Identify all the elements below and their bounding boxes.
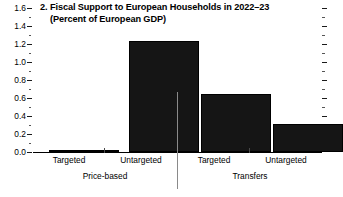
y-tick-label-3: 0.6 (14, 94, 26, 102)
y-tick-major-right-2 (322, 116, 327, 117)
y-tick-minor-left-6 (29, 35, 31, 36)
y-tick-major-left-3 (27, 98, 32, 99)
y-tick-minor-left-5 (29, 53, 31, 54)
y-tick-major-left-6 (27, 44, 32, 45)
x-axis-tick-1 (249, 148, 250, 153)
y-tick-minor-left-7 (29, 17, 31, 18)
y-tick-label-6: 1.2 (14, 40, 26, 48)
y-tick-major-left-8 (27, 8, 32, 9)
x-category-label-1: Untargeted (105, 156, 177, 165)
x-axis-tick-0 (104, 148, 105, 153)
x-category-label-3: Untargeted (250, 156, 322, 165)
y-tick-major-left-1 (27, 134, 32, 135)
bar-price-based-untargeted[interactable] (129, 41, 199, 152)
y-axis-labels: 0.0 0.2 0.4 0.6 0.8 1.0 1.2 1.4 1.6 (0, 0, 26, 197)
y-tick-minor-right-5 (322, 53, 325, 54)
x-category-label-2: Targeted (178, 156, 250, 165)
y-tick-minor-right-4 (322, 71, 325, 72)
bar-transfers-targeted[interactable] (201, 94, 271, 153)
y-tick-major-left-7 (27, 26, 32, 27)
y-tick-minor-right-2 (322, 107, 325, 108)
y-tick-label-0: 0.0 (14, 148, 26, 156)
y-tick-minor-right-6 (322, 35, 325, 36)
y-tick-major-left-0 (27, 152, 32, 153)
y-tick-minor-left-2 (29, 107, 31, 108)
y-tick-major-right-6 (322, 44, 327, 45)
y-tick-label-4: 0.8 (14, 76, 26, 84)
y-tick-major-left-4 (27, 80, 32, 81)
y-tick-label-7: 1.4 (14, 22, 26, 30)
x-group-label-price-based: Price-based (33, 172, 177, 181)
y-tick-major-left-2 (27, 116, 32, 117)
bar-transfers-untargeted[interactable] (273, 124, 343, 152)
y-tick-minor-right-7 (322, 17, 325, 18)
y-tick-label-5: 1.0 (14, 58, 26, 66)
y-tick-major-right-4 (322, 80, 327, 81)
y-tick-major-right-5 (322, 62, 327, 63)
y-tick-label-8: 1.6 (14, 4, 26, 12)
y-tick-label-1: 0.2 (14, 130, 26, 138)
y-tick-minor-right-3 (322, 89, 325, 90)
y-tick-major-right-8 (322, 8, 327, 9)
y-tick-label-2: 0.4 (14, 112, 26, 120)
y-tick-minor-left-1 (29, 125, 31, 126)
y-tick-major-right-7 (322, 26, 327, 27)
y-tick-major-left-5 (27, 62, 32, 63)
x-category-label-0: Targeted (33, 156, 105, 165)
y-tick-minor-left-0 (29, 143, 31, 144)
y-tick-minor-left-3 (29, 89, 31, 90)
y-tick-major-right-3 (322, 98, 327, 99)
x-group-label-transfers: Transfers (178, 172, 322, 181)
y-tick-minor-left-4 (29, 71, 31, 72)
